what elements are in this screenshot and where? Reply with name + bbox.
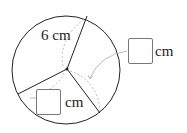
answer-box-right[interactable] bbox=[128, 38, 153, 64]
unit-label-right: cm bbox=[155, 44, 173, 59]
center-point bbox=[66, 68, 69, 71]
circle-figure bbox=[0, 0, 187, 133]
circle-sector-diagram: 6 cm cm cm bbox=[0, 0, 187, 133]
pointer-arrow bbox=[90, 51, 127, 78]
unit-label-lower: cm bbox=[65, 95, 83, 110]
answer-box-lower[interactable] bbox=[36, 89, 61, 115]
radius-label: 6 cm bbox=[41, 28, 71, 43]
